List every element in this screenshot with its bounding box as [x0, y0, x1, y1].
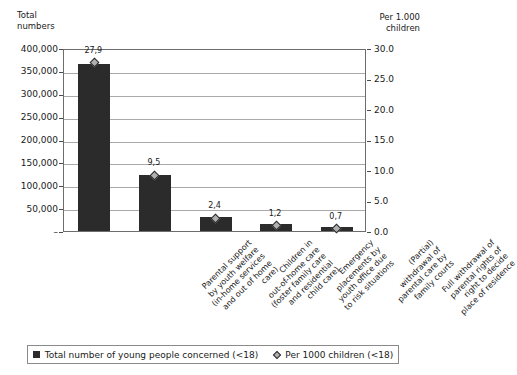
y-axis-tick-label-right: 5.0: [374, 197, 434, 206]
y-axis-tick-label-right: 10.0: [374, 167, 434, 176]
data-point-marker: [332, 224, 342, 234]
y-axis-tick-label-right: 25.0: [374, 75, 434, 84]
y-axis-tick-mark-left: [59, 95, 63, 96]
y-axis-tick-label-right: 0.0: [374, 228, 434, 237]
data-value-label: 27,9: [73, 47, 113, 55]
y-axis-tick-mark-left: [59, 163, 63, 164]
legend-item-total: Total number of young people concerned (…: [33, 350, 259, 360]
y-axis-tick-label-left: 100,000: [0, 182, 58, 191]
bar: [139, 175, 171, 231]
data-value-label: 1,2: [255, 210, 295, 218]
y-axis-tick-mark-left: [59, 186, 63, 187]
y-axis-tick-mark-right: [367, 202, 371, 203]
bar: [78, 64, 110, 231]
y-axis-tick-label-left: –: [0, 228, 58, 237]
chart-legend: Total number of young people concerned (…: [27, 345, 399, 364]
y-axis-tick-mark-left: [59, 209, 63, 210]
y-axis-tick-label-right: 20.0: [374, 106, 434, 115]
legend-label-total: Total number of young people concerned (…: [45, 350, 259, 360]
y-axis-tick-mark-right: [367, 110, 371, 111]
left-axis-caption: Total numbers: [17, 10, 55, 31]
y-axis-tick-label-left: 200,000: [0, 136, 58, 145]
y-axis-tick-label-left: 150,000: [0, 159, 58, 168]
y-axis-tick-mark-right: [367, 171, 371, 172]
y-axis-tick-mark-left: [59, 49, 63, 50]
y-axis-tick-mark-left: [59, 118, 63, 119]
legend-diamond-icon: [273, 350, 281, 358]
y-axis-tick-mark-right: [367, 141, 371, 142]
y-axis-tick-mark-left: [59, 141, 63, 142]
y-axis-tick-label-right: 15.0: [374, 136, 434, 145]
y-axis-tick-label-right: 30.0: [374, 45, 434, 54]
y-axis-tick-mark-left: [59, 72, 63, 73]
y-axis-tick-mark-left: [59, 232, 63, 233]
data-value-label: 2,4: [195, 202, 235, 210]
right-axis-caption: Per 1.000 children: [379, 12, 420, 33]
y-axis-tick-label-left: 400,000: [0, 45, 58, 54]
y-axis-tick-mark-right: [367, 232, 371, 233]
data-value-label: 0,7: [316, 213, 356, 221]
data-value-label: 9,5: [134, 159, 174, 167]
y-axis-tick-label-left: 350,000: [0, 67, 58, 76]
y-axis-tick-mark-right: [367, 80, 371, 81]
y-axis-tick-label-left: 300,000: [0, 90, 58, 99]
legend-square-icon: [33, 351, 40, 358]
y-axis-tick-label-left: 250,000: [0, 113, 58, 122]
y-axis-tick-mark-right: [367, 49, 371, 50]
legend-item-rate: Per 1000 children (<18): [274, 350, 393, 360]
y-axis-tick-label-left: 50,000: [0, 205, 58, 214]
